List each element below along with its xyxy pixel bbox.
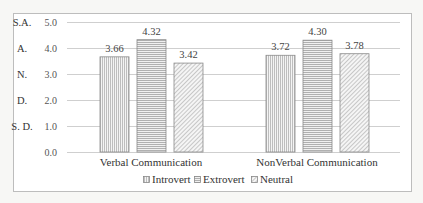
- bar-neutral-1: [340, 54, 369, 152]
- y-tick-label: 0.0: [45, 147, 58, 158]
- data-label: 3.42: [179, 49, 197, 60]
- bar-introvert-0: [100, 57, 129, 152]
- data-label: 4.30: [308, 26, 326, 37]
- likert-label: A.: [17, 43, 27, 54]
- legend-swatch: [252, 177, 258, 183]
- y-tick-label: 5.0: [45, 17, 58, 28]
- legend-swatch: [144, 177, 150, 183]
- legend: IntrovertExtrovertNeutral: [144, 173, 293, 185]
- y-tick-label: 1.0: [45, 121, 58, 132]
- likert-label: S. D.: [11, 121, 32, 132]
- legend-swatch: [195, 177, 201, 183]
- y-tick-label: 3.0: [45, 69, 58, 80]
- x-category-label: NonVerbal Communication: [256, 156, 378, 168]
- x-category-label: Verbal Communication: [100, 156, 203, 168]
- legend-label: Extrovert: [203, 173, 245, 185]
- likert-label: N.: [17, 69, 27, 80]
- legend-label: Neutral: [260, 173, 293, 185]
- bar-introvert-1: [266, 55, 295, 152]
- bar-extrovert-1: [303, 40, 332, 152]
- legend-label: Introvert: [152, 173, 190, 185]
- y-tick-label: 4.0: [45, 43, 58, 54]
- data-label: 3.72: [271, 41, 289, 52]
- data-label: 3.66: [105, 43, 123, 54]
- bar-chart: 0.01.02.03.04.05.0 S.A.A.N.D.S. D. 3.664…: [0, 0, 423, 203]
- y-tick-label: 2.0: [45, 95, 58, 106]
- data-label: 4.32: [142, 26, 160, 37]
- likert-label: D.: [17, 95, 27, 106]
- bar-extrovert-0: [137, 40, 166, 152]
- likert-label: S.A.: [13, 17, 32, 28]
- data-label: 3.78: [345, 40, 363, 51]
- bar-neutral-0: [174, 63, 203, 152]
